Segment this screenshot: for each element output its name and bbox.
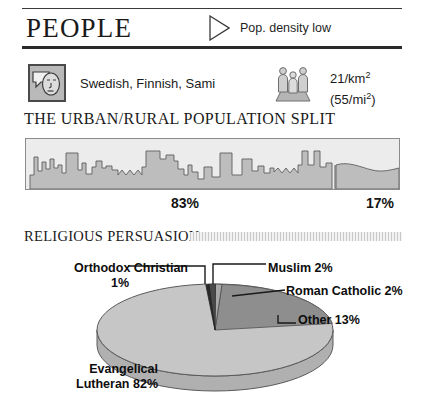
religion-heading: RELIGIOUS PERSUASION: [24, 228, 200, 245]
pie-label-roman-catholic: Roman Catholic 2%: [286, 284, 403, 299]
page-title: PEOPLE: [26, 13, 132, 43]
density-metric: 21/km2: [330, 71, 370, 86]
pie-label-orthodox-christian: Orthodox Christian 1%: [52, 261, 188, 291]
pie-label-muslim: Muslim 2%: [268, 261, 333, 276]
density-note: Pop. density low: [240, 21, 331, 35]
density-values: 21/km2 (55/mi2): [330, 67, 375, 108]
triangle-right-icon: [208, 15, 230, 41]
three-people-icon: [272, 64, 314, 104]
pie-label-evangelical-lutheran: Evangelical Lutheran 82%: [30, 362, 158, 392]
languages-text: Swedish, Finnish, Sami: [80, 76, 215, 91]
header-rule-top: [22, 8, 402, 9]
speech-face-icon: [28, 64, 66, 102]
urban-rural-chart: [25, 138, 400, 190]
header-rule-bottom: [22, 46, 402, 49]
header-band: PEOPLE Pop. density low: [22, 8, 402, 48]
urban-percentage: 83%: [155, 195, 215, 211]
religion-hatch-bar: [190, 232, 402, 241]
pie-label-other: Other 13%: [298, 313, 360, 328]
density-imperial: (55/mi2): [330, 92, 375, 107]
urban-rural-heading: THE URBAN/RURAL POPULATION SPLIT: [24, 110, 335, 128]
rural-percentage: 17%: [352, 195, 408, 211]
